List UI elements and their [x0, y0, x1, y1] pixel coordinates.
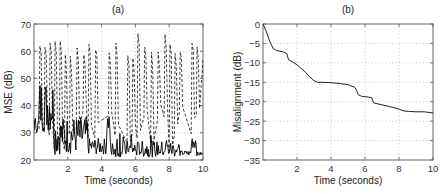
chart-title: (a) [112, 4, 124, 15]
panel-b-misalignment-chart: 2468100−5−10−15−20−25−30−35(b)Time (seco… [232, 4, 438, 186]
y-tick-label: 60 [20, 46, 31, 57]
plot-frame [263, 24, 433, 160]
y-tick-label: −30 [244, 135, 260, 146]
x-tick-label: 2 [294, 163, 299, 174]
series-solid-line [34, 86, 203, 158]
series-misalignment-line [263, 24, 433, 113]
figure: 246810203040506070(a)Time (seconds)MSE (… [0, 0, 446, 194]
chart-title: (b) [342, 4, 354, 15]
x-tick-label: 8 [396, 163, 401, 174]
x-tick-label: 8 [167, 163, 172, 174]
x-tick-label: 6 [362, 163, 367, 174]
x-tick-label: 2 [65, 163, 70, 174]
x-axis-label: Time (seconds) [314, 175, 383, 186]
y-tick-label: 20 [20, 155, 31, 166]
y-tick-label: −25 [244, 116, 260, 127]
y-tick-label: 30 [20, 127, 31, 138]
y-tick-label: 50 [20, 73, 31, 84]
x-tick-label: 6 [133, 163, 138, 174]
x-tick-label: 4 [328, 163, 333, 174]
y-tick-label: 70 [20, 19, 31, 30]
series-dashed-line [39, 33, 203, 150]
y-tick-label: −35 [244, 155, 260, 166]
y-tick-label: −15 [244, 77, 260, 88]
y-tick-label: 0 [255, 19, 260, 30]
panel-a-mse-chart: 246810203040506070(a)Time (seconds)MSE (… [3, 4, 208, 186]
y-axis-label: Misalignment (dB) [232, 52, 243, 133]
x-axis-label: Time (seconds) [84, 175, 153, 186]
y-tick-label: −20 [244, 96, 260, 107]
x-tick-label: 10 [428, 163, 439, 174]
y-tick-label: −10 [244, 57, 260, 68]
y-tick-label: −5 [249, 38, 260, 49]
x-tick-label: 10 [198, 163, 209, 174]
y-tick-label: 40 [20, 100, 31, 111]
x-tick-label: 4 [99, 163, 104, 174]
y-axis-label: MSE (dB) [3, 70, 14, 113]
